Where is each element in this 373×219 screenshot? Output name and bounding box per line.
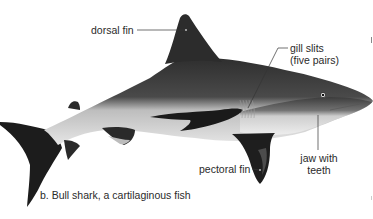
- label-gill-slits-note: (five pairs): [290, 54, 339, 66]
- label-teeth: teeth: [299, 164, 339, 176]
- label-gill-slits: gill slits: [290, 42, 324, 54]
- label-jaw: jaw with: [299, 152, 339, 164]
- label-pectoral-fin: pectoral fin: [199, 163, 250, 175]
- edge-mark: [371, 196, 372, 200]
- second-dorsal-fin: [68, 101, 80, 110]
- dorsal-fin: [165, 14, 222, 64]
- shark-illustration: [0, 0, 373, 219]
- figure-caption: b. Bull shark, a cartilaginous fish: [40, 189, 191, 201]
- edge-mark: [371, 37, 372, 43]
- eye-icon: [320, 92, 325, 97]
- shark-diagram: dorsal fin gill slits (five pairs) pecto…: [0, 0, 373, 219]
- label-dorsal-fin: dorsal fin: [91, 24, 134, 36]
- anal-fin: [64, 140, 80, 160]
